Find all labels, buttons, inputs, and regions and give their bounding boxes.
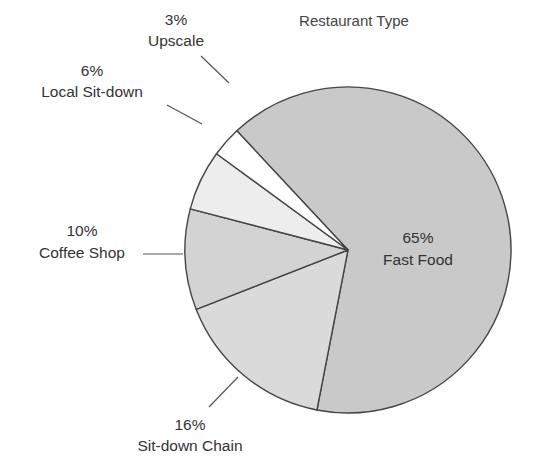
slice-value-label-upscale: 3% [165,11,188,28]
leader-line-sit-down-chain [209,377,238,407]
slice-value-label-coffee-shop: 10% [66,222,97,239]
slice-name-label-fast-food: Fast Food [383,251,453,268]
chart-title: Restaurant Type [299,12,409,29]
slice-value-label-local-sit-down: 6% [81,62,104,79]
leader-line-local-sit-down [167,105,202,124]
leader-line-upscale [201,56,229,83]
slice-name-label-local-sit-down: Local Sit-down [41,83,143,100]
pie-slices [185,87,511,413]
slice-value-label-sit-down-chain: 16% [174,416,205,433]
slice-name-label-coffee-shop: Coffee Shop [39,244,125,261]
slice-value-label-fast-food: 65% [402,229,433,246]
pie-chart: Restaurant Type 65% Fast Food 3% Upscale… [0,0,533,476]
slice-name-label-upscale: Upscale [148,32,204,49]
slice-name-label-sit-down-chain: Sit-down Chain [137,437,242,454]
